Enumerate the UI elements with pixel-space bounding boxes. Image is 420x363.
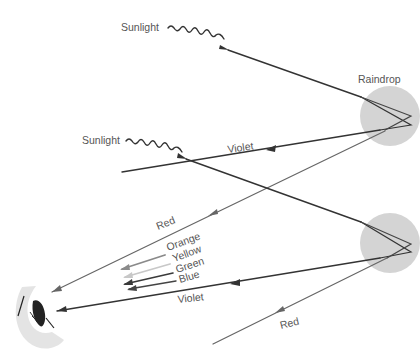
eye-icon <box>16 286 64 349</box>
blue-arrowhead <box>127 285 137 291</box>
orange-arrowhead <box>120 264 130 270</box>
red-arrowhead-lower <box>275 306 285 313</box>
sunlight-arrowhead-mid <box>177 153 187 159</box>
red-arrowhead-eye <box>52 285 62 292</box>
sunlight-wave-upper <box>168 26 224 39</box>
label-sunlight-mid: Sunlight <box>82 134 120 146</box>
rainbow-diagram: Sunlight Sunlight Raindrop Violet Red Or… <box>0 0 420 363</box>
label-raindrop: Raindrop <box>358 73 401 85</box>
label-red-upper: Red <box>154 213 177 231</box>
label-sunlight-top: Sunlight <box>121 21 159 33</box>
red-ray-upper <box>52 131 385 292</box>
label-violet-lower: Violet <box>177 290 204 305</box>
sunlight-wave-mid <box>126 139 182 152</box>
label-red-lower: Red <box>279 315 301 331</box>
raindrop-lower <box>360 213 420 273</box>
yellow-arrowhead <box>123 272 133 278</box>
label-violet-upper: Violet <box>227 139 255 155</box>
sunlight-ray-upper <box>228 50 361 97</box>
sunlight-arrowhead-upper <box>219 45 229 50</box>
sunlight-ray-mid <box>186 159 361 222</box>
violet-arrowhead-eye <box>57 306 67 312</box>
red-arrowhead-upper <box>208 209 218 216</box>
green-arrowhead <box>123 279 133 285</box>
